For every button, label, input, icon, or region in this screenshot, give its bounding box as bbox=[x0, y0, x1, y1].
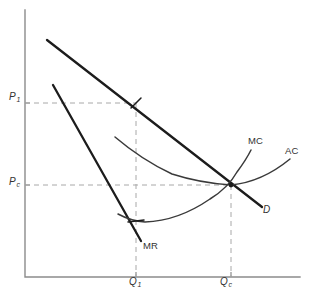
axis-label-qc-subscript: c bbox=[228, 281, 232, 288]
curve-label-ac: AC bbox=[285, 146, 299, 156]
axis-label-pc: Pc bbox=[9, 177, 20, 187]
axis-label-q1-subscript: 1 bbox=[137, 281, 142, 288]
equilibrium-point bbox=[229, 183, 234, 188]
axis-label-p1-text: P bbox=[9, 91, 16, 102]
axis-label-p1-subscript: 1 bbox=[16, 96, 21, 103]
axis-label-q1: Q1 bbox=[129, 277, 142, 287]
economics-diagram: P1 Pc Q1 Qc MC AC D MR bbox=[0, 0, 314, 296]
axis-label-pc-text: P bbox=[9, 176, 16, 187]
curve-label-mr: MR bbox=[143, 241, 158, 251]
axis-label-qc-text: Q bbox=[220, 276, 228, 287]
curve-label-mc: MC bbox=[248, 136, 263, 146]
curve-label-d: D bbox=[263, 205, 270, 215]
axis-label-p1: P1 bbox=[9, 92, 20, 102]
axis-label-qc: Qc bbox=[220, 277, 232, 287]
axis-label-pc-subscript: c bbox=[16, 181, 20, 188]
axis-label-q1-text: Q bbox=[129, 276, 137, 287]
diagram-canvas bbox=[0, 0, 314, 296]
